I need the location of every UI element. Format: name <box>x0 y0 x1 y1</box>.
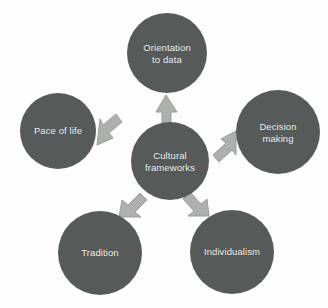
node-tradition[interactable] <box>58 211 142 295</box>
cultural-frameworks-diagram: Orientation to dataDecision makingIndivi… <box>0 0 328 308</box>
node-layer <box>20 13 320 295</box>
node-individualism[interactable] <box>190 210 274 294</box>
arrow-to-pace-icon <box>97 114 122 145</box>
node-decision-making[interactable] <box>236 90 320 174</box>
node-orientation-to-data[interactable] <box>127 13 207 93</box>
diagram-canvas-svg <box>0 0 328 308</box>
node-pace-of-life[interactable] <box>20 93 96 169</box>
arrow-to-tradition-icon <box>119 193 147 217</box>
node-center-cultural-frameworks[interactable] <box>131 122 209 200</box>
arrow-to-decision-icon <box>213 131 236 162</box>
